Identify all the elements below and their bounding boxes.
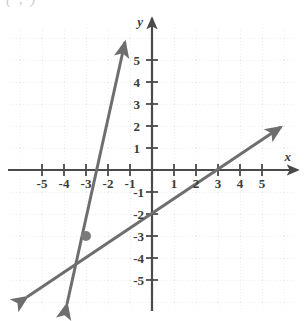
y-tick-label: 2 [134,119,141,134]
y-axis-label: y [135,14,143,29]
x-tick-label: -4 [59,176,70,191]
y-tick-label: 4 [134,75,141,90]
x-tick-label: 4 [237,176,244,191]
x-tick-label: -5 [37,176,48,191]
y-tick-label: -5 [133,273,144,288]
y-tick-label: -4 [133,251,144,266]
x-tick-label: 3 [215,176,222,191]
y-tick-label: -3 [133,229,144,244]
y-tick-label: 5 [134,53,141,68]
graph-svg: -5 -4 -3 -2 -1 1 2 3 4 5 5 4 3 2 1 -1 -2… [0,0,304,321]
clipped-header-text: ( , ) [6,0,37,8]
x-tick-label: -2 [103,176,114,191]
intersection-point-marker [81,231,91,241]
x-tick-label: 1 [171,176,178,191]
x-tick-label: 2 [193,176,200,191]
y-tick-label: 3 [134,97,141,112]
coordinate-graph-figure: ( , ) [0,0,304,321]
x-tick-label: 5 [259,176,266,191]
y-tick-label: -2 [133,207,144,222]
x-tick-label: -3 [81,176,92,191]
y-tick-label: -1 [133,185,144,200]
y-tick-label: 1 [134,141,141,156]
x-axis-label: x [284,149,292,164]
